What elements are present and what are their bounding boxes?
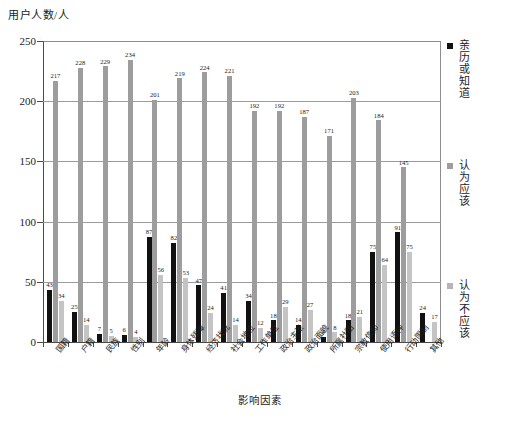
bar [152, 100, 157, 342]
y-axis-tick-label: 150 [2, 155, 36, 167]
bar-group: 2522814 [72, 41, 89, 342]
bar-value-label: 53 [179, 270, 193, 277]
bar-value-label: 64 [378, 257, 392, 264]
bar-value-label: 29 [278, 299, 292, 306]
y-axis-label: 用户人数/人 [8, 6, 69, 22]
bar-value-label: 229 [98, 59, 112, 66]
bar [97, 334, 102, 342]
bar-value-label: 192 [247, 103, 261, 110]
bar-value-label: 234 [123, 52, 137, 59]
bar-group: 62344 [122, 41, 139, 342]
bar [47, 290, 52, 342]
bar-value-label: 224 [198, 65, 212, 72]
bar [128, 60, 133, 342]
legend-swatch [447, 163, 453, 169]
bar-value-label: 17 [427, 314, 441, 321]
legend-swatch [447, 43, 453, 49]
y-axis-tick-label: 50 [2, 276, 36, 288]
bar-value-label: 192 [272, 103, 286, 110]
y-axis-tick-label: 250 [2, 35, 36, 47]
bar-value-label: 24 [204, 305, 218, 312]
bar-group: 1418727 [296, 41, 313, 342]
bar [147, 237, 152, 342]
y-axis-tick-label: 100 [2, 216, 36, 228]
bar-value-label: 34 [54, 293, 68, 300]
bar [376, 120, 381, 342]
x-axis-title: 影响因素 [0, 392, 519, 407]
bar-value-label: 24 [416, 305, 430, 312]
bar-group: 9114575 [395, 41, 412, 342]
bar [351, 98, 356, 342]
y-axis-tick-label: 200 [2, 95, 36, 107]
bar [252, 111, 257, 342]
bar-value-label: 201 [148, 92, 162, 99]
bar-group: 4122114 [221, 41, 238, 342]
bar-value-label: 219 [173, 71, 187, 78]
bar-value-label: 14 [228, 317, 242, 324]
bar-value-label: 171 [322, 128, 336, 135]
bar [277, 111, 282, 342]
bar-value-label: 203 [347, 90, 361, 97]
bar [122, 335, 127, 342]
bar-group: 8720156 [147, 41, 164, 342]
legend-label: 认为应该 [458, 159, 469, 207]
bar-value-label: 184 [372, 113, 386, 120]
legend-label: 认为不应该 [458, 279, 469, 339]
chart-figure: 用户人数/人 050100150200250 43217342522814722… [0, 0, 519, 426]
bar-value-label: 27 [303, 302, 317, 309]
bar-value-label: 221 [223, 68, 237, 75]
x-axis-tick-mark [43, 342, 44, 347]
bar-group: 4722424 [196, 41, 213, 342]
bar [158, 275, 163, 342]
bar [401, 167, 406, 342]
bar [103, 66, 108, 342]
bar-value-label: 56 [154, 267, 168, 274]
bar [78, 68, 83, 343]
bar-value-label: 75 [403, 244, 417, 251]
legend-swatch [447, 283, 453, 289]
bar-group: 7518464 [370, 41, 387, 342]
bar [327, 136, 332, 342]
bar-value-label: 21 [353, 309, 367, 316]
bar-value-label: 14 [79, 317, 93, 324]
bar-value-label: 145 [397, 160, 411, 167]
bar-group: 3419212 [246, 41, 263, 342]
legend-label: 亲历或知道 [458, 39, 469, 99]
bar [202, 72, 207, 342]
bar-series-container: 4321734252281472295623448720156822195347… [43, 41, 441, 342]
y-axis-tick-label: 0 [2, 336, 36, 348]
bar-group: 8221953 [171, 41, 188, 342]
bar [72, 312, 77, 342]
bar-group: 72295 [97, 41, 114, 342]
bar [382, 265, 387, 342]
chart-legend: 亲历或知道认为应该认为不应该 [447, 41, 519, 361]
bar-value-label: 228 [73, 60, 87, 67]
bar-group: 1820321 [346, 41, 363, 342]
bar-group: 41718 [321, 41, 338, 342]
bar-value-label: 217 [48, 73, 62, 80]
bar-group: 1819229 [271, 41, 288, 342]
bar [177, 78, 182, 342]
bar [53, 81, 58, 342]
bar [171, 243, 176, 342]
bar [407, 252, 412, 342]
bar-value-label: 187 [297, 109, 311, 116]
bar-group: 2417 [420, 41, 437, 342]
bar-value-label: 12 [253, 320, 267, 327]
bar-group: 4321734 [47, 41, 64, 342]
bar [227, 76, 232, 342]
